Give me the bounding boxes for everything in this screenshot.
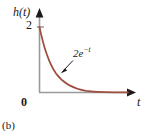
curve-annotation-exponent: −t — [83, 45, 90, 54]
y-tick-label-2: 2 — [26, 19, 32, 31]
curve-2e-minus-t — [40, 27, 129, 92]
curve-annotation-base: 2e — [73, 47, 83, 59]
figure-panel-b: h(t) 2 0 t 2e−t (b) — [0, 0, 152, 140]
x-axis-label: t — [137, 96, 140, 108]
exponential-decay-plot — [0, 0, 152, 140]
curve-annotation-label: 2e−t — [73, 48, 91, 59]
annotation-arrowhead-icon — [61, 68, 68, 73]
y-axis-label: h(t) — [13, 6, 30, 18]
y-axis-arrowhead-icon — [36, 8, 44, 18]
figure-caption: (b) — [2, 120, 15, 131]
origin-label: 0 — [21, 96, 27, 108]
